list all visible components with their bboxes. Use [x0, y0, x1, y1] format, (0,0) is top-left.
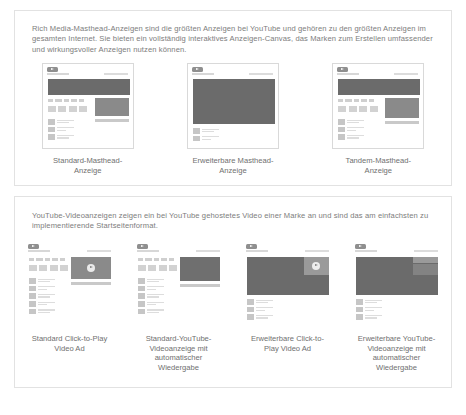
video-list: [48, 119, 74, 140]
masthead-item-tandem[interactable]: Tandem-Masthead-Anzeige: [306, 63, 451, 175]
nav-right-placeholder: [394, 73, 418, 75]
video-thumbnail-row: Standard Click-to-Play Video Ad: [15, 241, 451, 372]
video-item-standard-autoplay[interactable]: Standard-YouTube-Videoanzeige mit automa…: [124, 241, 233, 372]
masthead-banner-expanded: [193, 79, 275, 124]
youtube-logo-icon: [47, 67, 58, 72]
chips-row-1: [338, 99, 374, 102]
thumbnail-expandable-click-to-play: [242, 241, 334, 327]
youtube-wordmark-placeholder: [47, 73, 69, 75]
video-caption-expandable-click-to-play: Erweiterbare Click-to-Play Video Ad: [245, 334, 331, 353]
sidebar-ad-box: [95, 98, 129, 116]
thumbnail-tandem-masthead: [332, 63, 424, 149]
video-list: [356, 299, 382, 320]
thumbnail-standard-masthead: [42, 63, 134, 149]
play-button-icon[interactable]: [312, 262, 320, 270]
masthead-caption-tandem: Tandem-Masthead-Anzeige: [335, 156, 421, 175]
masthead-banner: [48, 79, 130, 95]
youtube-logo-icon: [355, 244, 366, 249]
video-item-standard-click-to-play[interactable]: Standard Click-to-Play Video Ad: [15, 241, 124, 372]
youtube-logo-icon: [192, 67, 203, 72]
youtube-wordmark-placeholder: [246, 250, 268, 252]
chips-row-1: [138, 258, 174, 261]
video-list: [29, 278, 55, 314]
video-caption-standard-autoplay: Standard-YouTube-Videoanzeige mit automa…: [136, 334, 222, 372]
nav-right-placeholder: [104, 73, 128, 75]
tandem-companion-caption: [385, 121, 419, 124]
tiles-row: [48, 106, 88, 112]
video-item-expandable-click-to-play[interactable]: Erweiterbare Click-to-Play Video Ad: [233, 241, 342, 372]
youtube-wordmark-placeholder: [337, 73, 359, 75]
video-caption-expandable-autoplay: Erweiterbare YouTube-Videoanzeige mit au…: [354, 334, 440, 372]
masthead-item-standard[interactable]: Standard-Masthead-Anzeige: [15, 63, 160, 175]
masthead-intro-text: Rich Media-Masthead-Anzeigen sind die gr…: [32, 24, 435, 55]
youtube-logo-icon: [337, 67, 348, 72]
thumbnail-standard-autoplay: [133, 241, 225, 327]
video-list: [138, 278, 164, 314]
chips-row-1: [29, 258, 65, 261]
sidebar-ad-caption: [95, 119, 129, 122]
video-list: [247, 299, 273, 320]
youtube-wordmark-placeholder: [28, 250, 50, 252]
tandem-companion-box: [385, 98, 419, 118]
video-caption-standard-click-to-play: Standard Click-to-Play Video Ad: [27, 334, 113, 353]
nav-right-placeholder: [414, 250, 438, 252]
nav-right-placeholder: [87, 250, 111, 252]
video-list: [338, 119, 364, 140]
video-item-expandable-autoplay[interactable]: Erweiterbare YouTube-Videoanzeige mit au…: [342, 241, 451, 372]
video-player-caption: [180, 284, 220, 287]
chips-row-1: [48, 99, 84, 102]
masthead-caption-expandable: Erweiterbare Masthead-Anzeige: [190, 156, 276, 175]
youtube-wordmark-placeholder: [355, 250, 377, 252]
youtube-logo-icon: [28, 244, 39, 249]
youtube-wordmark-placeholder: [192, 73, 214, 75]
masthead-ad-card: Rich Media-Masthead-Anzeigen sind die gr…: [14, 10, 452, 186]
inline-video-player-autoplay[interactable]: [413, 264, 438, 275]
video-ad-card: YouTube-Videoanzeigen zeigen ein bei You…: [14, 196, 452, 388]
tiles-row: [138, 265, 178, 271]
nav-right-placeholder: [305, 250, 329, 252]
play-button-icon[interactable]: [87, 264, 95, 272]
thumbnail-expandable-masthead: [187, 63, 279, 149]
youtube-wordmark-placeholder: [137, 250, 159, 252]
tiles-row: [338, 106, 378, 112]
masthead-thumbnail-row: Standard-Masthead-Anzeige Erweiterbare M…: [15, 63, 451, 175]
nav-right-placeholder: [196, 250, 220, 252]
video-player-box-autoplay[interactable]: [180, 257, 220, 281]
video-intro-text: YouTube-Videoanzeigen zeigen ein bei You…: [32, 211, 435, 232]
page-root: Rich Media-Masthead-Anzeigen sind die gr…: [0, 0, 466, 415]
thumbnail-expandable-autoplay: [351, 241, 443, 327]
video-player-caption: [71, 282, 111, 285]
masthead-caption-standard: Standard-Masthead-Anzeige: [45, 156, 131, 175]
masthead-banner: [338, 79, 420, 95]
video-list: [193, 128, 219, 141]
youtube-logo-icon: [137, 244, 148, 249]
nav-right-placeholder: [249, 73, 273, 75]
masthead-item-expandable[interactable]: Erweiterbare Masthead-Anzeige: [160, 63, 305, 175]
companion-strip-top: [413, 257, 438, 263]
thumbnail-standard-click-to-play: [24, 241, 116, 327]
youtube-logo-icon: [246, 244, 257, 249]
tiles-row: [29, 265, 69, 271]
